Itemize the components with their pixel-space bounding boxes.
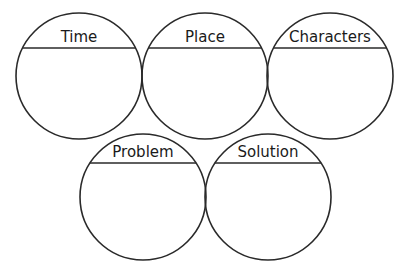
circle-time: Time [16,13,142,139]
circle-label-time: Time [60,28,98,46]
circle-solution: Solution [205,134,331,260]
circle-label-characters: Characters [289,28,371,46]
circle-problem: Problem [80,134,206,260]
circle-label-solution: Solution [237,143,298,161]
circle-characters: Characters [267,13,393,139]
circle-label-problem: Problem [112,143,173,161]
circle-label-place: Place [185,28,225,46]
story-organizer-diagram: TimePlaceCharactersProblemSolution [0,0,409,274]
circle-place: Place [142,13,268,139]
